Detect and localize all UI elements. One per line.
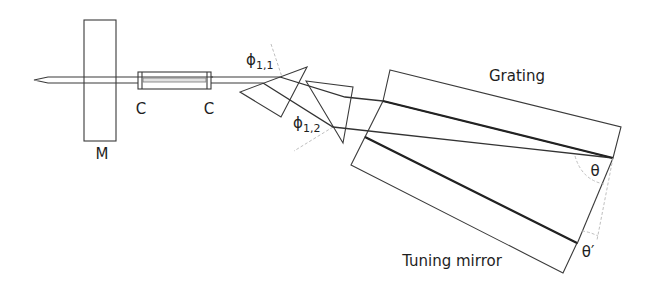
label-phi-11: ϕ1,1	[246, 51, 273, 72]
mirror-m	[84, 20, 116, 141]
prism-1	[240, 67, 307, 117]
collimator-tube	[138, 72, 211, 89]
label-theta-prime: θ′	[582, 243, 595, 261]
phi-11-symbol: ϕ	[246, 51, 256, 69]
theta-prime-arc	[582, 231, 598, 236]
label-tuning-mirror: Tuning mirror	[401, 252, 503, 270]
littman-laser-diagram: M C C ϕ1,1 ϕ1,2 Grating Tuning mirror θ …	[0, 0, 649, 294]
phi-12-subscript: 1,2	[303, 122, 321, 135]
ray-lower	[263, 83, 613, 158]
label-mirror: M	[96, 145, 109, 163]
phi-12-symbol: ϕ	[293, 114, 303, 132]
label-grating: Grating	[489, 67, 545, 85]
phi-11-subscript: 1,1	[256, 59, 274, 72]
grating-surface	[383, 101, 613, 158]
label-theta: θ	[590, 162, 599, 180]
label-collimator-left: C	[136, 100, 146, 118]
label-collimator-right: C	[204, 100, 214, 118]
tuning-mirror-surface	[365, 137, 577, 243]
